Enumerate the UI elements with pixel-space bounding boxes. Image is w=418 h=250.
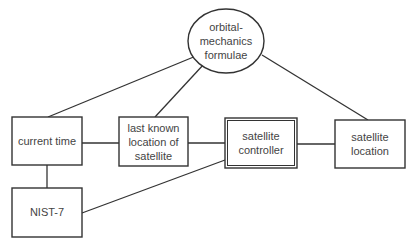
diagram: orbital- mechanics formulae current time… [0, 0, 418, 250]
edges [47, 55, 368, 213]
node-label-line: last known [128, 122, 180, 134]
edge-formulae-current-time [48, 56, 196, 117]
node-label-line: NIST-7 [30, 206, 64, 218]
svg-text:last known: last known [128, 122, 180, 134]
node-label-line: formulae [205, 49, 248, 61]
node-label-line: location of [128, 136, 179, 148]
svg-text:NIST-7: NIST-7 [30, 206, 64, 218]
svg-text:satellite: satellite [242, 130, 279, 142]
edge-nist-controller [82, 160, 225, 213]
node-label-line: orbital- [209, 21, 243, 33]
svg-text:location of: location of [128, 136, 179, 148]
node-satellite-location: satellite location [335, 120, 405, 168]
node-satellite-controller: satellite controller [225, 118, 297, 168]
node-label-line: controller [238, 144, 284, 156]
svg-text:current time: current time [18, 135, 76, 147]
svg-text:controller: controller [238, 144, 284, 156]
node-label-line: satellite [351, 131, 388, 143]
svg-text:location: location [351, 145, 389, 157]
svg-text:orbital-: orbital- [209, 21, 243, 33]
node-label-line: mechanics [200, 35, 253, 47]
svg-text:satellite: satellite [351, 131, 388, 143]
node-label-line: satellite [135, 150, 172, 162]
svg-text:mechanics: mechanics [200, 35, 253, 47]
node-label-line: current time [18, 135, 76, 147]
svg-text:satellite: satellite [135, 150, 172, 162]
edge-formulae-satellite-location [262, 55, 368, 120]
node-current-time: current time [12, 117, 82, 165]
svg-text:formulae: formulae [205, 49, 248, 61]
node-orbital-mechanics-formulae: orbital- mechanics formulae [188, 9, 264, 73]
edge-formulae-last-known [155, 64, 204, 117]
node-nist-7: NIST-7 [12, 188, 82, 237]
node-last-known-location: last known location of satellite [119, 117, 188, 166]
node-label-line: satellite [242, 130, 279, 142]
node-label-line: location [351, 145, 389, 157]
